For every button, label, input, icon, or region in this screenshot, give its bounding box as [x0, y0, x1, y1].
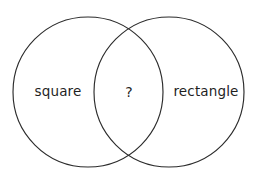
venn-label-left: square — [35, 85, 82, 99]
venn-diagram: square ? rectangle — [0, 0, 257, 182]
venn-label-intersection: ? — [125, 85, 133, 99]
venn-label-right: rectangle — [173, 85, 238, 99]
